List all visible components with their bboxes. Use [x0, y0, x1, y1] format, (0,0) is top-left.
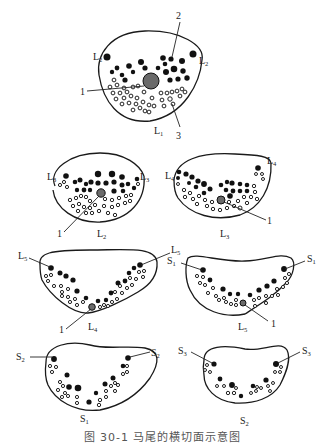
filum-terminale — [143, 73, 159, 89]
callout-2: 2 — [176, 10, 181, 21]
callout-1: 1 — [80, 86, 85, 97]
panel-title-s1: S1 — [80, 413, 89, 425]
callout-1: 1 — [59, 324, 64, 335]
panel-l3: 1 L4 L4 L3 — [165, 154, 277, 240]
dural-sac-outline — [203, 346, 288, 403]
callout-1: 1 — [267, 215, 272, 226]
panel-s1: S2 S2 S1 — [16, 343, 160, 425]
panel-title-s2: S2 — [240, 415, 249, 427]
side-label-left: L2 — [93, 51, 102, 63]
filum-terminale — [89, 304, 96, 311]
dural-sac-outline — [40, 250, 157, 313]
side-label-left: S2 — [16, 351, 25, 363]
panel-l4: 1 L5 L5 L4 — [18, 244, 180, 335]
panel-title-l2: L2 — [97, 228, 106, 240]
side-leader-right — [285, 261, 305, 269]
filum-terminale — [217, 196, 225, 204]
dural-sac-outline — [186, 256, 294, 315]
side-label-right: L4 — [267, 155, 277, 167]
side-label-right: S2 — [151, 347, 160, 359]
panel-l1: 2 1 3 L2 L2 L1 — [80, 10, 208, 141]
panel-title-l4: L4 — [88, 321, 98, 333]
panel-l5: 1 S1 S1 L5 — [167, 253, 316, 333]
panel-title-l5: L5 — [238, 321, 247, 333]
side-label-right: L3 — [140, 171, 149, 183]
sensory-roots — [204, 364, 283, 395]
side-label-left: L4 — [165, 170, 175, 182]
panel-title-l1: L1 — [154, 125, 163, 137]
panel-s2: S3 S3 S2 — [178, 345, 311, 427]
filum-terminale — [97, 189, 105, 197]
side-label-left: S1 — [167, 255, 176, 267]
side-label-right: S3 — [302, 345, 311, 357]
side-label-left: S3 — [178, 345, 187, 357]
side-label-left: L5 — [18, 250, 27, 262]
side-leader-right — [130, 352, 150, 357]
panel-title-l3: L3 — [220, 228, 229, 240]
side-label-right: L2 — [199, 55, 208, 67]
panel-l2: 1 L3 L3 L2 — [47, 153, 149, 240]
side-leader-right — [141, 253, 170, 265]
callout-3: 3 — [176, 130, 181, 141]
motor-roots — [200, 266, 287, 297]
callout-1: 1 — [57, 228, 62, 239]
side-label-right: S1 — [307, 253, 316, 265]
callout-1: 1 — [271, 318, 276, 329]
side-leader-left — [191, 352, 212, 363]
figure-caption: 图 30-1 马尾的横切面示意图 — [0, 428, 325, 444]
callout-leader-2 — [172, 22, 180, 57]
side-leader-left — [181, 263, 202, 270]
sensory-roots — [177, 173, 265, 212]
